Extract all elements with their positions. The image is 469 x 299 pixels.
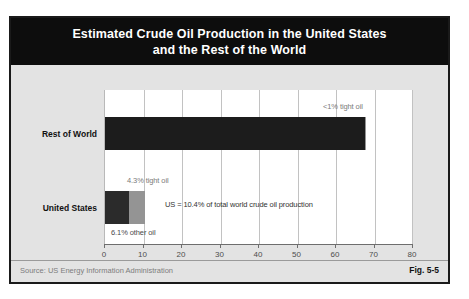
annotation-us-other-oil: 6.1% other oil (111, 228, 155, 237)
annotation-world-tight-oil: <1% tight oil (323, 102, 363, 111)
bar-united-states[interactable]: United States (105, 191, 145, 224)
annotation-us-total-share: US = 10.4% of total world crude oil prod… (165, 200, 313, 209)
figure-title-banner: Estimated Crude Oil Production in the Un… (11, 18, 448, 65)
gridline-80 (412, 90, 413, 244)
gridline-20 (182, 90, 183, 244)
gridline-30 (221, 90, 222, 244)
bar-segment-world-other-oil (105, 117, 365, 150)
x-tick-label-40: 40 (254, 250, 263, 259)
bar-segment-us-other-oil (105, 191, 129, 224)
x-tick-label-70: 70 (369, 250, 378, 259)
x-tick-20 (181, 244, 182, 248)
x-tick-30 (220, 244, 221, 248)
bar-segment-us-tight-oil (129, 191, 146, 224)
figure-title-line-2: and the Rest of the World (153, 42, 307, 58)
x-tick-label-0: 0 (102, 250, 106, 259)
x-tick-label-30: 30 (215, 250, 224, 259)
category-label-united-states: United States (43, 203, 97, 213)
figure-number: Fig. 5-5 (409, 265, 439, 275)
plot-area: Rest of World United States <1% tight oi… (104, 90, 413, 244)
figure-title-line-1: Estimated Crude Oil Production in the Un… (72, 26, 386, 42)
annotation-us-tight-oil: 4.3% tight oil (127, 176, 169, 185)
x-tick-60 (335, 244, 336, 248)
x-tick-70 (374, 244, 375, 248)
figure-footer: Source: US Energy Information Administra… (11, 260, 448, 282)
x-tick-label-10: 10 (138, 250, 147, 259)
bar-segment-world-tight-oil (365, 117, 367, 150)
gridline-60 (336, 90, 337, 244)
category-label-rest-of-world: Rest of World (42, 129, 97, 139)
source-text: Source: US Energy Information Administra… (20, 266, 173, 275)
bar-rest-of-world[interactable]: Rest of World (105, 117, 366, 150)
gridline-70 (375, 90, 376, 244)
x-tick-label-80: 80 (408, 250, 417, 259)
x-tick-0 (104, 244, 105, 248)
gridline-50 (298, 90, 299, 244)
chart-body: Rest of World United States <1% tight oi… (11, 65, 448, 282)
x-tick-40 (258, 244, 259, 248)
x-tick-80 (412, 244, 413, 248)
gridline-40 (259, 90, 260, 244)
figure-container: Estimated Crude Oil Production in the Un… (9, 16, 450, 284)
x-tick-10 (143, 244, 144, 248)
x-tick-label-20: 20 (177, 250, 186, 259)
x-tick-label-60: 60 (331, 250, 340, 259)
x-tick-label-50: 50 (292, 250, 301, 259)
x-tick-50 (297, 244, 298, 248)
